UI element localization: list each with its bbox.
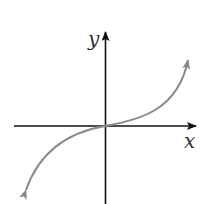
x-axis-label: x — [184, 129, 195, 153]
cubic-graph: y x — [0, 0, 210, 204]
cubic-curve — [26, 60, 188, 190]
y-axis-label: y — [87, 27, 100, 51]
